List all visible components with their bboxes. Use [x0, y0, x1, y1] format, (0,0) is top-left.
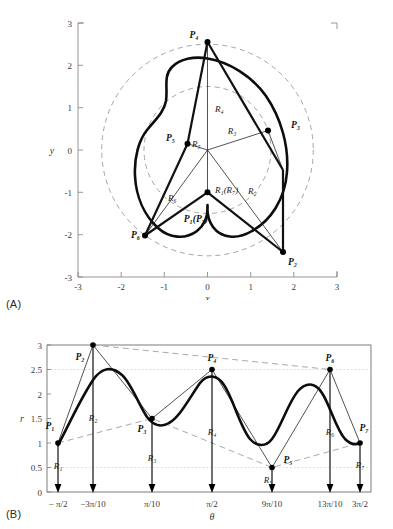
panel-a-radius-labels: R₁(R₇) R₂ R₃ R₄ R₅ R₆: [167, 104, 257, 203]
point-label-P4: P₄: [207, 353, 216, 363]
point-label-P2: P₂: [288, 257, 297, 267]
y-tick-label: 2.5: [31, 365, 43, 375]
panel-a-plot: 3 2 1 0 -1 -2 -3 y -3 -2 -1 0 1 2 3 x: [0, 0, 393, 300]
y-tick-label: 1: [38, 439, 43, 449]
y-tick-label: 1: [68, 103, 73, 113]
radius-label-R2: R₂: [88, 413, 98, 423]
x-tick-label: -3: [74, 282, 82, 292]
radius-label-R6: R₆: [167, 193, 177, 203]
figure-container: 3 2 1 0 -1 -2 -3 y -3 -2 -1 0 1 2 3 x: [0, 0, 393, 529]
panel-b-y-ticks: 3 2.5 2 1.5 1 0.5 0 r: [20, 341, 51, 498]
x-tick-label: 0: [205, 282, 210, 292]
x-tick-label: 3π/2: [352, 499, 368, 509]
panel-b-tag: (B): [6, 508, 21, 520]
x-tick-label: -2: [117, 282, 125, 292]
point-label-P1: P₁: [45, 421, 54, 431]
x-tick-label: − π/2: [49, 499, 68, 509]
shape-chord-lines: [145, 42, 283, 252]
point-label-P5: P₅: [166, 133, 175, 143]
panel-b-x-ticks: − π/2 −3π/10 π/10 π/2 9π/10 13π/10 3π/2 …: [49, 499, 368, 522]
point-label-P6: P₆: [131, 230, 140, 240]
point-label-P5: P₅: [283, 455, 292, 465]
panel-a-x-axis-label: x: [204, 293, 210, 300]
radius-label-R4: R₄: [207, 427, 217, 437]
point-label-P1-P7: P₁(P₇): [184, 214, 209, 225]
radius-label-R2: R₂: [247, 186, 257, 196]
point-label-P2: P₂: [75, 352, 84, 362]
x-tick-label: 2: [292, 282, 297, 292]
x-tick-label: 3: [335, 282, 340, 292]
point-label-P4: P₄: [189, 30, 198, 40]
y-tick-label: 1.5: [31, 414, 43, 424]
point-label-P3: P₃: [291, 120, 300, 130]
x-tick-label: π/2: [206, 499, 218, 509]
panel-b-dashed-guides: [58, 345, 360, 468]
panel-b-control-polygon: [58, 345, 360, 468]
panel-a-x-ticks: -3 -2 -1 0 1 2 3 x: [74, 272, 340, 300]
radius-label-R5: R₅: [191, 139, 201, 149]
radius-label-R5: R₅: [263, 475, 273, 485]
y-tick-label: 0: [38, 488, 43, 498]
x-tick-label: 13π/10: [317, 499, 343, 509]
panel-a-tag: (A): [6, 298, 21, 310]
panel-b-x-axis-label: θ: [210, 511, 215, 522]
radius-label-R1: R₁: [53, 461, 63, 471]
y-tick-label: 3: [68, 19, 73, 29]
panel-b-radius-labels: R₁ R₂ R₃ R₄ R₅ R₆ R₇: [53, 413, 365, 485]
y-tick-label: -3: [65, 273, 73, 283]
y-tick-label: 3: [38, 341, 43, 351]
x-tick-label: 1: [248, 282, 253, 292]
radius-label-R3: R₃: [147, 453, 157, 463]
panel-b-point-labels: P₁ P₂ P₃ P₄ P₅ P₆ P₇: [45, 352, 369, 465]
x-tick-label: 9π/10: [262, 499, 283, 509]
x-tick-label: −3π/10: [80, 499, 106, 509]
y-tick-label: -2: [65, 230, 73, 240]
point-label-P7: P₇: [359, 423, 369, 433]
panel-b-gridlines: [47, 345, 371, 468]
radius-label-R3: R₃: [227, 126, 237, 136]
point-label-P6: P₆: [325, 353, 334, 363]
y-tick-label: -1: [65, 188, 73, 198]
panel-b-radius-arrows: [55, 345, 364, 493]
point-label-P3: P₃: [137, 424, 146, 434]
radius-label-R7: R₇: [355, 460, 365, 470]
panel-a-y-axis-label: y: [49, 145, 55, 156]
x-tick-label: -1: [161, 282, 169, 292]
y-tick-label: 2: [38, 390, 43, 400]
x-tick-label: π/10: [144, 499, 161, 509]
panel-b-plot: 3 2.5 2 1.5 1 0.5 0 r − π/2 −3π/10 π/10 …: [0, 335, 393, 529]
y-tick-label: 0.5: [31, 463, 43, 473]
panel-b-y-axis-label: r: [20, 413, 24, 424]
y-tick-label: 2: [68, 61, 73, 71]
y-tick-label: 0: [68, 146, 73, 156]
radius-label-R1-R7: R₁(R₇): [214, 185, 238, 195]
radius-label-R6: R₆: [325, 427, 335, 437]
radius-label-R4: R₄: [214, 104, 224, 114]
